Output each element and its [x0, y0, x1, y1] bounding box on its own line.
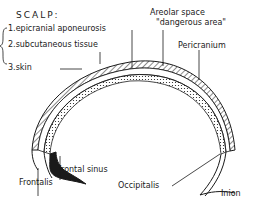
frontal-bone-lower [32, 150, 52, 178]
inion-label: Inion [221, 190, 241, 198]
frontal-sinus-label: Frontal sinus [57, 166, 108, 174]
areolar-space-label: Areolar space [150, 9, 205, 17]
layer-label-skin: 3.skin [8, 64, 32, 72]
layer-label-subcutaneous-tissue: 2.subcutaneous tissue [8, 41, 98, 49]
layer-label-epicranial-aponeurosis: 1.epicranial aponeurosis [8, 25, 106, 33]
layers-bracket [0, 28, 7, 64]
scalp-title: SCALP: [16, 11, 60, 20]
occipitalis-label: Occipitalis [118, 182, 159, 190]
dangerous-area-label: "dangerous area" [156, 19, 226, 27]
pericranium-label: Pericranium [178, 42, 226, 50]
frontalis-label: Frontalis [19, 179, 53, 187]
leader-occipitalis [172, 154, 220, 186]
